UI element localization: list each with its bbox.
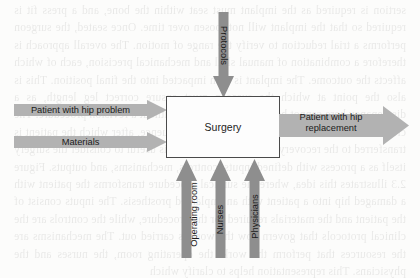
output-arrow-patient-with-hip-replacement[interactable] — [279, 106, 409, 145]
process-diagram: Protocols Patient with hip problem Mater… — [0, 0, 420, 278]
process-box[interactable]: Surgery — [166, 96, 280, 158]
scanned-page: sertion is required as the implant must … — [0, 0, 420, 278]
control-arrow-protocols[interactable] — [213, 12, 234, 98]
input-arrow-patient-with-hip-problem[interactable] — [14, 100, 167, 120]
mechanism-arrow-nurses[interactable] — [210, 159, 231, 258]
process-box-label: Surgery — [205, 121, 242, 133]
input-arrow-materials[interactable] — [14, 132, 167, 152]
mechanism-arrow-operating-room[interactable] — [176, 159, 197, 258]
mechanism-arrow-physicians[interactable] — [244, 159, 265, 258]
